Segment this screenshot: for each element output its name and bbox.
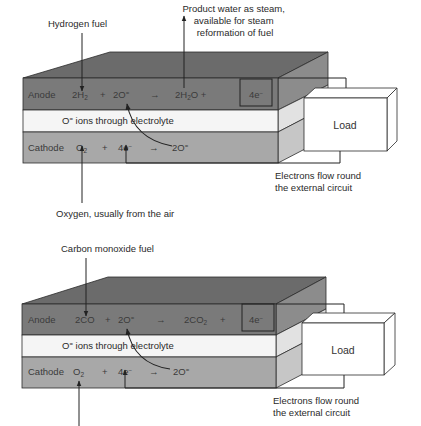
fuel-label: Carbon monoxide fuel [61, 243, 154, 254]
anode-top-face [22, 277, 326, 304]
oxidant-label: Oxygen, usually from the air [56, 208, 174, 219]
anode-layer [22, 304, 276, 335]
electrolyte-label: O= ions through electrolyte [62, 340, 174, 351]
load-side-face [387, 88, 397, 151]
load-side-face [384, 313, 395, 375]
load-label: Load [331, 344, 355, 356]
cell-hydrogen: Anode 2H2 + 2O= → 2H2O + 4e− O= ions thr… [23, 3, 397, 219]
load-label: Load [333, 119, 357, 131]
cell-carbon-monoxide: Anode 2CO + 2O= → 2CO2 + 4e− O= ions thr… [22, 243, 395, 426]
anode-top-face [23, 52, 328, 78]
circuit-label: Electrons flow round the external circui… [275, 170, 364, 193]
fuel-label: Hydrogen fuel [48, 18, 107, 29]
load-top-face [302, 313, 395, 323]
product-label: Product water as steam, available for st… [182, 3, 287, 38]
fuel-cell-diagram: Anode 2H2 + 2O= → 2H2O + 4e− O= ions thr… [0, 0, 421, 426]
circuit-label: Electrons flow round the external circui… [273, 395, 362, 418]
electrolyte-label: O= ions through electrolyte [62, 115, 174, 126]
load-top-face [304, 88, 397, 98]
